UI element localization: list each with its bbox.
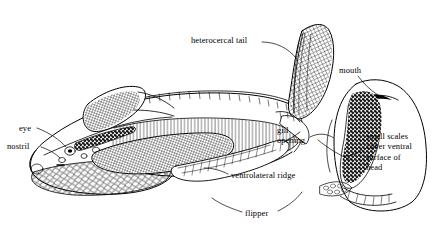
label-flipper: flipper — [245, 209, 268, 219]
label-eye: eye — [19, 124, 31, 134]
figure-canvas: heterocercal tail mouth eye nostril gill… — [0, 0, 440, 236]
label-ventrolateral-ridge: ventrolateral ridge — [231, 171, 295, 181]
label-small-scales-cover-ventral-surface-of-head: small scales cover ventral surface of he… — [366, 131, 412, 173]
label-heterocercal-tail: heterocercal tail — [191, 36, 247, 46]
label-gill-opening: gill opening — [277, 126, 305, 145]
leader-gill-opening — [310, 134, 334, 138]
label-mouth: mouth — [339, 66, 361, 76]
leader-flipper-2 — [278, 192, 302, 211]
label-nostril: nostril — [7, 142, 29, 152]
leader-flipper — [212, 198, 242, 212]
leader-heterocercal-tail — [262, 42, 296, 58]
